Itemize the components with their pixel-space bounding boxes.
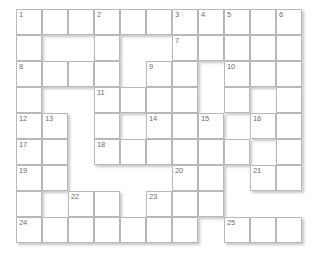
crossword-cell[interactable] [42,61,68,87]
crossword-cell[interactable]: 19 [16,165,42,191]
crossword-cell[interactable]: 1 [16,9,42,35]
crossword-cell[interactable] [120,87,146,113]
crossword-cell[interactable] [198,35,224,61]
clue-number: 19 [19,166,27,176]
crossword-cell[interactable] [120,217,146,243]
crossword-cell[interactable]: 11 [94,87,120,113]
crossword-cell[interactable] [250,217,276,243]
crossword-cell[interactable] [250,61,276,87]
crossword-blank [68,165,94,191]
crossword-cell[interactable] [276,139,302,165]
crossword-cell[interactable]: 8 [16,61,42,87]
crossword-blank [68,139,94,165]
crossword-blank [146,35,172,61]
crossword-cell[interactable] [68,61,94,87]
crossword-cell[interactable] [198,165,224,191]
crossword-cell[interactable] [250,35,276,61]
crossword-cell[interactable] [42,9,68,35]
crossword-cell[interactable]: 20 [172,165,198,191]
crossword-cell[interactable] [250,9,276,35]
crossword-cell[interactable] [68,217,94,243]
crossword-blank [250,87,276,113]
crossword-blank [68,113,94,139]
clue-number: 16 [253,114,261,124]
crossword-cell[interactable]: 23 [146,191,172,217]
crossword-cell[interactable]: 17 [16,139,42,165]
crossword-cell[interactable] [120,9,146,35]
crossword-cell[interactable]: 22 [68,191,94,217]
crossword-cell[interactable] [172,87,198,113]
crossword-cell[interactable]: 4 [198,9,224,35]
crossword-blank [120,113,146,139]
crossword-blank [250,139,276,165]
crossword-cell[interactable]: 7 [172,35,198,61]
crossword-blank [68,35,94,61]
crossword-cell[interactable] [68,9,94,35]
clue-number: 12 [19,114,27,124]
crossword-cell[interactable] [172,113,198,139]
crossword-cell[interactable]: 10 [224,61,250,87]
crossword-cell[interactable]: 5 [224,9,250,35]
crossword-cell[interactable] [94,61,120,87]
clue-number: 25 [227,218,235,228]
crossword-cell[interactable] [42,139,68,165]
crossword-cell[interactable]: 6 [276,9,302,35]
clue-number: 9 [149,62,153,72]
crossword-cell[interactable]: 24 [16,217,42,243]
crossword-cell[interactable]: 12 [16,113,42,139]
crossword-cell[interactable]: 21 [250,165,276,191]
crossword-cell[interactable] [276,113,302,139]
clue-number: 15 [201,114,209,124]
crossword-cell[interactable] [16,35,42,61]
crossword-cell[interactable] [224,35,250,61]
crossword-cell[interactable]: 18 [94,139,120,165]
crossword-cell[interactable] [146,217,172,243]
crossword-cell[interactable] [146,87,172,113]
crossword-cell[interactable] [172,139,198,165]
clue-number: 18 [97,140,105,150]
crossword-cell[interactable] [94,35,120,61]
crossword-cell[interactable] [172,191,198,217]
crossword-cell[interactable]: 15 [198,113,224,139]
crossword-cell[interactable]: 9 [146,61,172,87]
crossword-cell[interactable] [94,217,120,243]
clue-number: 6 [279,10,283,20]
crossword-cell[interactable] [224,87,250,113]
clue-number: 11 [97,88,104,98]
crossword-cell[interactable] [16,191,42,217]
crossword-blank [276,191,302,217]
crossword-cell[interactable]: 3 [172,9,198,35]
crossword-blank [94,165,120,191]
crossword-cell[interactable] [276,61,302,87]
crossword-cell[interactable] [94,113,120,139]
crossword-cell[interactable] [276,165,302,191]
crossword-cell[interactable]: 25 [224,217,250,243]
crossword-cell[interactable] [276,87,302,113]
crossword-blank [198,217,224,243]
crossword-cell[interactable] [94,191,120,217]
crossword-cell[interactable]: 14 [146,113,172,139]
crossword-cell[interactable] [198,139,224,165]
crossword-cell[interactable] [198,191,224,217]
crossword-blank [224,191,250,217]
crossword-cell[interactable] [224,139,250,165]
crossword-cell[interactable] [120,139,146,165]
crossword-cell[interactable] [16,87,42,113]
crossword-cell[interactable]: 2 [94,9,120,35]
crossword-cell[interactable] [146,139,172,165]
crossword-cell[interactable] [276,35,302,61]
crossword-grid: 1234567891011121314151617181920212223242… [16,9,302,243]
crossword-cell[interactable] [172,217,198,243]
crossword-cell[interactable] [172,61,198,87]
crossword-cell[interactable] [146,9,172,35]
crossword-cell[interactable]: 13 [42,113,68,139]
clue-number: 2 [97,10,101,20]
crossword-cell[interactable] [42,165,68,191]
clue-number: 24 [19,218,27,228]
crossword-cell[interactable] [276,217,302,243]
crossword-puzzle: 1234567891011121314151617181920212223242… [0,0,317,266]
crossword-blank [120,61,146,87]
crossword-cell[interactable] [42,217,68,243]
crossword-blank [120,165,146,191]
crossword-cell[interactable]: 16 [250,113,276,139]
